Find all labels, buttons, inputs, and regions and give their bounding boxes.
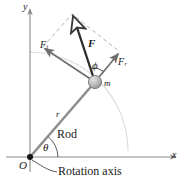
force-radial-subscript: r [125,60,127,67]
force-radial-label: Fr [118,57,127,68]
rotation-axis-leader-line [32,160,57,172]
force-vector [74,17,96,82]
x-axis-label: x [172,150,176,160]
parallelogram-dashed [43,14,120,52]
rod-line [30,82,95,157]
rotation-axis-label: Rotation axis [58,165,122,177]
y-axis-label: y [23,2,27,12]
mass-sphere [88,75,101,88]
force-tangential-subscript: t [47,43,49,50]
physics-diagram: y x O r Rod θ ϕ m F Ft Fr Rotation axis [0,0,186,184]
force-radial-symbol: F [118,56,124,67]
force-tangential-label: Ft [40,40,48,51]
diagram-canvas [0,0,186,184]
force-tangential-vector [45,49,96,83]
radius-label: r [56,110,60,119]
theta-label: θ [43,142,48,153]
phi-label: ϕ [92,60,98,71]
mass-label: m [104,79,111,88]
origin-label: O [19,160,27,171]
force-label: F [88,38,95,49]
rod-label: Rod [57,128,77,140]
force-tangential-symbol: F [40,39,46,50]
origin-dot [27,154,33,160]
